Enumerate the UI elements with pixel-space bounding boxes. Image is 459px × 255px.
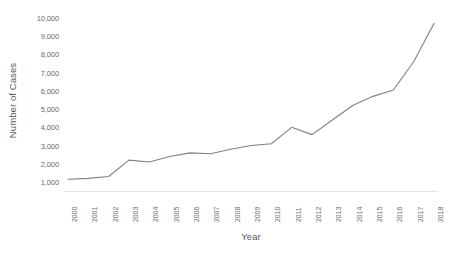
y-axis-tick-label: 2,000 [41, 159, 59, 168]
y-axis-tick-label: 5,000 [41, 105, 59, 114]
y-axis-tick-label: 4,000 [41, 123, 59, 132]
plot-svg [64, 0, 438, 200]
line-chart: Number of Cases 1,0002,0003,0004,0005,00… [0, 0, 459, 255]
plot-area [64, 0, 438, 200]
x-axis-tick-labels: 2000200120022003200420052006200720082009… [64, 192, 438, 230]
y-axis-tick-labels: 1,0002,0003,0004,0005,0006,0007,0008,000… [26, 0, 62, 200]
y-axis-title: Number of Cases [0, 0, 26, 200]
y-axis-tick-label: 8,000 [41, 50, 59, 59]
x-axis-title: Year [64, 231, 438, 242]
y-axis-tick-label: 7,000 [41, 68, 59, 77]
y-axis-tick-label: 1,000 [41, 178, 59, 187]
data-series-line [68, 23, 434, 179]
y-axis-tick-label: 3,000 [41, 141, 59, 150]
y-axis-tick-label: 9,000 [41, 32, 59, 41]
y-axis-title-label: Number of Cases [8, 62, 19, 137]
y-axis-tick-label: 10,000 [37, 14, 59, 23]
y-axis-tick-label: 6,000 [41, 86, 59, 95]
